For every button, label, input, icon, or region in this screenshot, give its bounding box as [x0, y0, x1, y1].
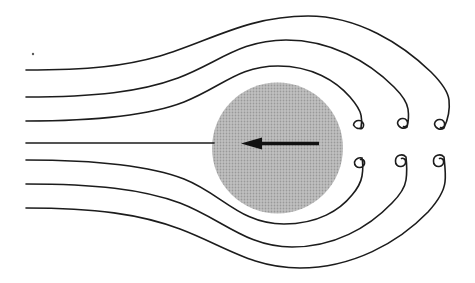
figure-flow-around-moving-sphere	[0, 0, 475, 283]
streamline-top-middle	[26, 40, 409, 128]
flow-diagram	[0, 0, 475, 283]
moving-sphere	[212, 83, 343, 214]
dust-speck	[32, 53, 34, 55]
